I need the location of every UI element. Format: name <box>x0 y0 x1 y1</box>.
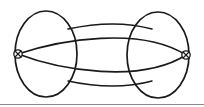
connecting-edges <box>18 24 186 86</box>
edge-top-arc <box>18 38 186 55</box>
multigraph-drawing <box>0 0 204 107</box>
vertex-right <box>182 51 190 59</box>
vertex-left <box>14 50 22 58</box>
figure-container: Two-vertex multigraph with self-loops <box>0 0 204 107</box>
self-loop-right <box>127 12 189 98</box>
self-loop-left <box>15 11 77 97</box>
edge-upper-bridge <box>68 24 152 29</box>
edge-bottom-arc <box>18 54 186 72</box>
edge-lower-bridge <box>68 81 152 86</box>
